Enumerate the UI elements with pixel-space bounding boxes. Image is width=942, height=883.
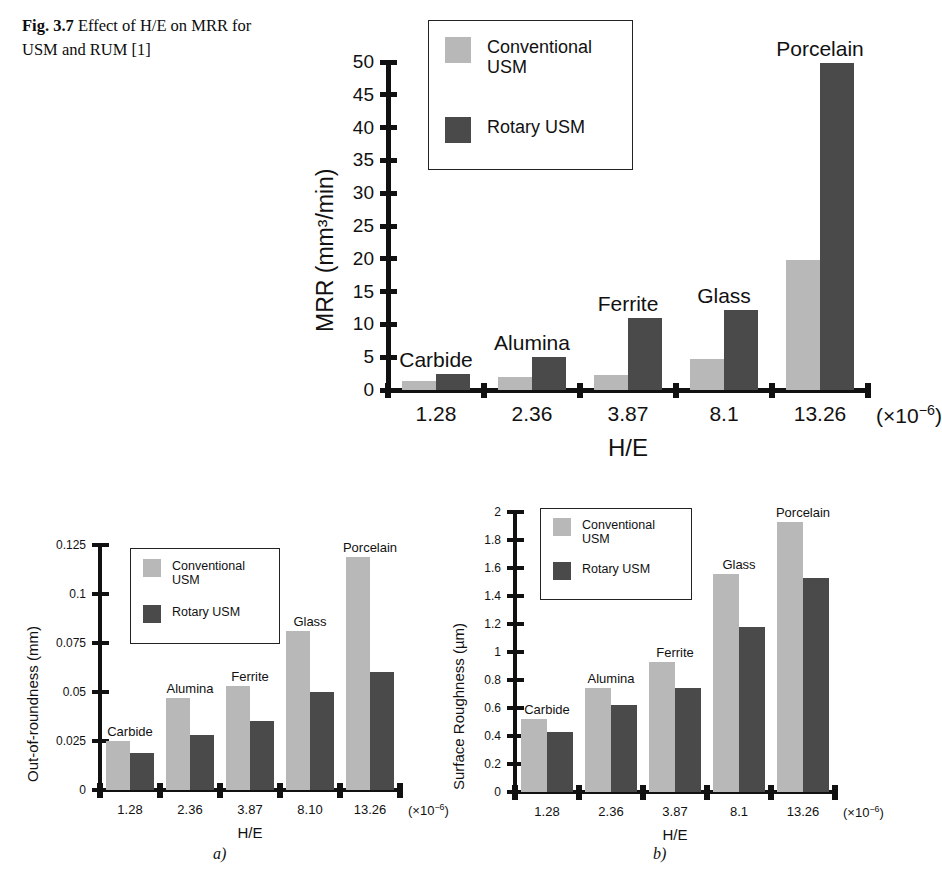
legend-out-of-roundness: Conventional USMRotary USM — [130, 548, 280, 644]
legend-swatch-rotary-mrr — [445, 117, 471, 143]
bar-group-label-surface-roughness-2: Ferrite — [656, 645, 694, 660]
legend-item-conventional-out-of-roundness: Conventional USM — [143, 559, 245, 587]
y-tick-mrr-5 — [380, 224, 397, 229]
x-tick-surface-roughness-end — [832, 785, 838, 800]
x-axis-multiplier-surface-roughness: (×10−6) — [843, 804, 884, 820]
bar-group-label-out-of-roundness-0: Carbide — [107, 724, 153, 739]
bar-rotary-out-of-roundness-0 — [130, 753, 154, 790]
bar-rotary-mrr-4 — [820, 63, 854, 390]
bar-group-label-mrr-2: Ferrite — [598, 292, 659, 316]
y-axis-title-mrr: MRR (mm³/min) — [312, 168, 339, 332]
y-tick-mrr-6 — [380, 191, 397, 196]
x-tick-label-mrr-2: 3.87 — [608, 402, 649, 426]
figure-caption: Fig. 3.7 Effect of H/E on MRR for USM an… — [22, 14, 262, 62]
x-tick-surface-roughness-1 — [576, 785, 582, 800]
subfigure-label-a: a) — [213, 845, 226, 863]
y-tick-mrr-4 — [380, 256, 397, 261]
bar-group-label-surface-roughness-4: Porcelain — [776, 505, 830, 520]
bar-rotary-out-of-roundness-4 — [370, 672, 394, 790]
x-tick-label-surface-roughness-4: 13.26 — [787, 804, 820, 819]
y-tick-label-out-of-roundness-5: 0.125 — [12, 538, 86, 552]
x-tick-label-out-of-roundness-3: 8.10 — [297, 802, 322, 817]
bar-conventional-out-of-roundness-3 — [286, 631, 310, 790]
y-tick-label-mrr-0: 0 — [300, 379, 374, 401]
x-tick-out-of-roundness-2 — [217, 783, 223, 798]
y-axis-title-out-of-roundness: Out-of-roundness (mm) — [24, 626, 41, 782]
x-tick-label-out-of-roundness-2: 3.87 — [237, 802, 262, 817]
y-tick-out-of-roundness-3 — [92, 641, 109, 644]
x-tick-mrr-end — [865, 383, 871, 398]
bar-group-label-surface-roughness-1: Alumina — [588, 671, 635, 686]
bar-group-label-out-of-roundness-2: Ferrite — [231, 669, 269, 684]
legend-label-conventional-mrr: Conventional USM — [487, 37, 592, 77]
bar-group-label-mrr-4: Porcelain — [776, 37, 864, 61]
bar-rotary-surface-roughness-0 — [547, 732, 573, 792]
y-tick-label-surface-roughness-8: 1.6 — [427, 561, 501, 575]
x-tick-mrr-1 — [481, 383, 487, 398]
y-tick-label-mrr-8: 40 — [300, 117, 374, 139]
y-tick-surface-roughness-4 — [507, 678, 524, 681]
legend-item-rotary-surface-roughness: Rotary USM — [553, 562, 650, 580]
x-tick-mrr-0 — [385, 383, 391, 398]
x-tick-mrr-3 — [673, 383, 679, 398]
legend-swatch-rotary-out-of-roundness — [143, 605, 161, 623]
figure-number: Fig. 3.7 — [22, 16, 74, 35]
bar-conventional-out-of-roundness-4 — [346, 557, 370, 790]
y-tick-surface-roughness-10 — [507, 510, 524, 513]
bar-group-label-surface-roughness-0: Carbide — [524, 702, 570, 717]
y-tick-surface-roughness-8 — [507, 566, 524, 569]
bar-conventional-surface-roughness-2 — [649, 662, 675, 792]
y-tick-mrr-8 — [380, 125, 397, 130]
x-tick-out-of-roundness-3 — [277, 783, 283, 798]
x-tick-surface-roughness-0 — [512, 785, 518, 800]
y-tick-label-out-of-roundness-4: 0.1 — [12, 587, 86, 601]
subfigure-label-b: b) — [653, 845, 666, 863]
y-tick-mrr-7 — [380, 158, 397, 163]
x-tick-label-surface-roughness-2: 3.87 — [662, 804, 687, 819]
x-tick-label-out-of-roundness-0: 1.28 — [117, 802, 142, 817]
bar-conventional-mrr-3 — [690, 359, 724, 390]
y-tick-label-surface-roughness-9: 1.8 — [427, 533, 501, 547]
bar-rotary-mrr-1 — [532, 357, 566, 390]
bar-conventional-surface-roughness-0 — [521, 719, 547, 792]
bar-group-label-mrr-1: Alumina — [494, 331, 570, 355]
y-tick-surface-roughness-5 — [507, 650, 524, 653]
x-tick-label-surface-roughness-3: 8.1 — [730, 804, 748, 819]
legend-label-rotary-mrr: Rotary USM — [487, 117, 585, 137]
x-axis-title-mrr: H/E — [608, 434, 648, 462]
legend-label-rotary-out-of-roundness: Rotary USM — [172, 605, 240, 619]
x-tick-out-of-roundness-0 — [97, 783, 103, 798]
bar-conventional-surface-roughness-3 — [713, 574, 739, 792]
legend-swatch-conventional-mrr — [445, 37, 471, 63]
x-tick-label-out-of-roundness-4: 13.26 — [354, 802, 387, 817]
legend-swatch-conventional-surface-roughness — [553, 518, 571, 536]
bar-conventional-out-of-roundness-0 — [106, 741, 130, 790]
y-axis-line-out-of-roundness — [98, 543, 101, 790]
bar-rotary-out-of-roundness-1 — [190, 735, 214, 790]
y-tick-label-out-of-roundness-0: 0 — [12, 783, 86, 797]
y-tick-mrr-3 — [380, 289, 397, 294]
y-tick-out-of-roundness-2 — [92, 690, 109, 693]
legend-swatch-rotary-surface-roughness — [553, 562, 571, 580]
chart-surface-roughness: 00.20.40.60.811.21.41.61.82Surface Rough… — [440, 490, 890, 860]
x-axis-title-surface-roughness: H/E — [662, 826, 687, 843]
bar-conventional-mrr-2 — [594, 375, 628, 390]
x-tick-out-of-roundness-end — [397, 783, 403, 798]
x-tick-label-out-of-roundness-1: 2.36 — [177, 802, 202, 817]
bar-conventional-surface-roughness-4 — [777, 522, 803, 792]
legend-surface-roughness: Conventional USMRotary USM — [540, 508, 692, 600]
legend-label-rotary-surface-roughness: Rotary USM — [582, 562, 650, 576]
bar-rotary-out-of-roundness-2 — [250, 721, 274, 790]
y-tick-surface-roughness-7 — [507, 594, 524, 597]
y-axis-title-surface-roughness: Surface Roughness (µm) — [450, 623, 467, 790]
x-tick-out-of-roundness-1 — [157, 783, 163, 798]
y-tick-mrr-10 — [380, 60, 397, 65]
bar-conventional-mrr-4 — [786, 260, 820, 390]
x-tick-mrr-4 — [769, 383, 775, 398]
bar-conventional-surface-roughness-1 — [585, 688, 611, 792]
bar-group-label-out-of-roundness-4: Porcelain — [343, 540, 397, 555]
x-tick-label-surface-roughness-0: 1.28 — [534, 804, 559, 819]
bar-rotary-out-of-roundness-3 — [310, 692, 334, 790]
bar-conventional-out-of-roundness-2 — [226, 686, 250, 790]
y-tick-label-surface-roughness-10: 2 — [427, 505, 501, 519]
